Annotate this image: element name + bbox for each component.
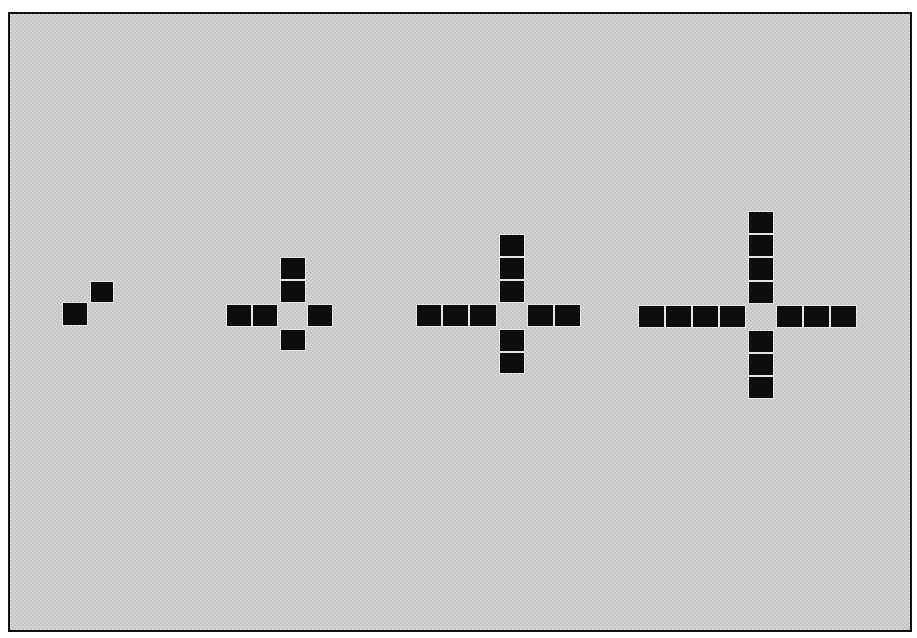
grid-cell <box>499 234 525 257</box>
grid-cell <box>665 305 692 328</box>
grid-cell <box>748 330 774 353</box>
grid-cell <box>748 234 774 257</box>
grid-cell <box>62 302 88 326</box>
grid-cell <box>527 304 554 327</box>
grid-cell <box>416 304 442 327</box>
grid-cell <box>499 329 525 352</box>
grid-cell <box>692 305 719 328</box>
grid-cell <box>280 280 306 303</box>
grid-cell <box>252 304 278 327</box>
grid-cell <box>748 281 774 304</box>
grid-cell <box>748 211 774 234</box>
grid-cell <box>469 304 497 327</box>
grid-cell <box>638 305 665 328</box>
grid-cell <box>776 305 803 328</box>
grid-cell <box>748 257 774 281</box>
grid-cell <box>803 305 830 328</box>
grid-cell <box>499 257 525 280</box>
grid-cell <box>307 304 333 327</box>
grid-cell <box>280 329 306 351</box>
grid-cell <box>554 304 581 327</box>
grid-cell <box>748 353 774 376</box>
grid-cell <box>748 376 774 399</box>
grid-cell <box>226 304 252 327</box>
grid-cell <box>499 280 525 303</box>
grid-cell <box>90 281 114 303</box>
grid-cell <box>830 305 857 328</box>
grid-cell <box>280 257 306 280</box>
grid-cell <box>442 304 469 327</box>
grid-cell <box>719 305 746 328</box>
grid-cell <box>499 352 525 374</box>
